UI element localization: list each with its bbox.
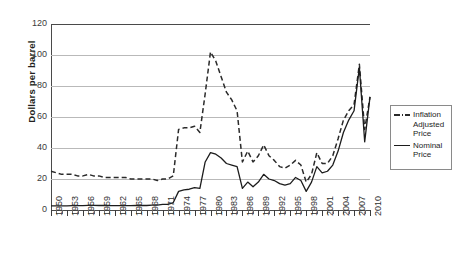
x-tick-label: 1998 (310, 196, 319, 216)
x-tick-label: 1974 (183, 196, 192, 216)
x-tick-label: 1959 (103, 196, 112, 216)
x-tick-label: 1962 (119, 196, 128, 216)
legend-label-line-1: Nominal (413, 141, 448, 151)
series-lines (51, 24, 370, 210)
y-tick-label: 40 (21, 143, 47, 152)
y-tick-label: 60 (21, 112, 47, 121)
y-tick-label: 120 (21, 19, 47, 28)
x-tick-label: 1992 (278, 196, 287, 216)
legend-item-nominal-price: Nominal Price (394, 141, 448, 160)
series-line-inflation-adjusted-price (51, 52, 370, 182)
legend-label-line-1: Inflation (413, 110, 448, 120)
x-tick-label: 1977 (199, 196, 208, 216)
x-axis-tick-labels: 1950195319561959196219651968197119741977… (51, 216, 381, 278)
legend-label-line-2: Price (413, 150, 448, 160)
x-tick-label: 1968 (151, 196, 160, 216)
chart-legend: Inflation Adjusted Price Nominal Price (390, 105, 452, 170)
x-tick-label: 2010 (374, 196, 383, 216)
x-tick-label: 1950 (55, 196, 64, 216)
x-tick-label: 1986 (246, 196, 255, 216)
solid-line-swatch-icon (394, 145, 410, 147)
x-tick-label: 1989 (262, 196, 271, 216)
x-tick-label: 1956 (87, 196, 96, 216)
x-tick-label: 1995 (294, 196, 303, 216)
x-tick-label: 2007 (358, 196, 367, 216)
y-tick-label: 100 (21, 50, 47, 59)
x-tick-label: 1980 (215, 196, 224, 216)
x-tick-label: 2001 (326, 196, 335, 216)
legend-label-line-3: Price (413, 129, 448, 139)
chart-figure: Dollars per barrel 020406080100120 19501… (0, 0, 475, 278)
x-tick-label: 1971 (167, 196, 176, 216)
y-tick-label: 20 (21, 174, 47, 183)
y-tick-label: 80 (21, 81, 47, 90)
plot-area (51, 24, 370, 210)
x-tick-label: 1983 (230, 196, 239, 216)
x-tick-label: 1965 (135, 196, 144, 216)
dashed-line-swatch-icon (394, 114, 410, 116)
x-tick-label: 2004 (342, 196, 351, 216)
x-tick-label: 1953 (71, 196, 80, 216)
y-tick-label: 0 (21, 205, 47, 214)
legend-item-inflation-adjusted-price: Inflation Adjusted Price (394, 110, 448, 139)
y-axis-tick-labels: 020406080100120 (16, 0, 47, 278)
legend-label-line-2: Adjusted (413, 120, 448, 130)
series-line-nominal-price (51, 67, 370, 206)
